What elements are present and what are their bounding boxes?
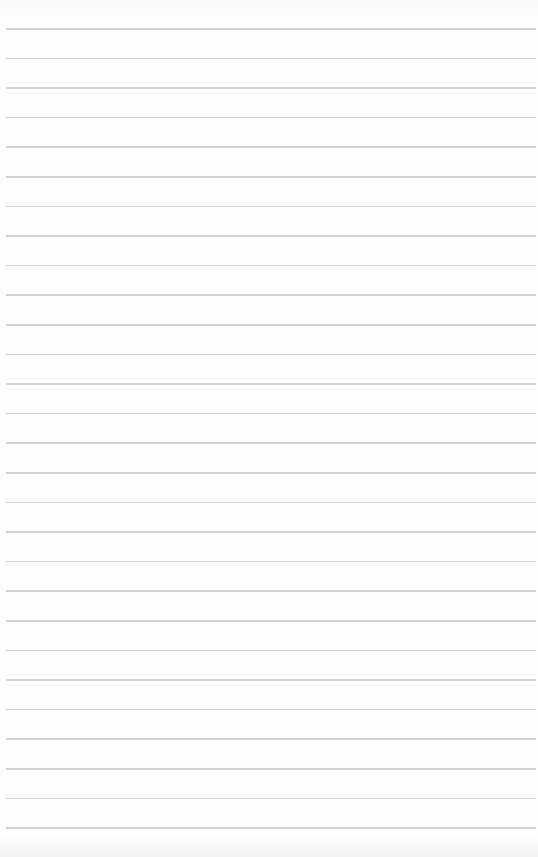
ruled-line [6, 294, 536, 296]
ruled-line [6, 235, 536, 237]
ruled-line [6, 117, 536, 119]
lined-paper-sheet [0, 0, 538, 857]
ruled-line [6, 679, 536, 681]
ruled-line [6, 413, 536, 415]
ruled-line [6, 28, 536, 30]
ruled-line [6, 590, 536, 592]
ruled-line [6, 502, 536, 504]
ruled-line [6, 146, 536, 148]
ruled-line [6, 87, 536, 89]
ruled-line [6, 354, 536, 356]
ruled-line [6, 531, 536, 533]
ruled-line [6, 650, 536, 652]
ruled-line [6, 798, 536, 800]
ruled-line [6, 561, 536, 563]
ruled-line [6, 738, 536, 740]
ruled-line [6, 58, 536, 60]
ruled-line [6, 442, 536, 444]
ruled-line [6, 176, 536, 178]
ruled-line [6, 620, 536, 622]
ruled-line [6, 472, 536, 474]
ruled-line [6, 383, 536, 385]
ruled-line [6, 206, 536, 208]
ruled-line [6, 768, 536, 770]
ruled-line [6, 709, 536, 711]
ruled-line [6, 265, 536, 267]
ruled-line [6, 827, 536, 829]
ruled-line [6, 324, 536, 326]
